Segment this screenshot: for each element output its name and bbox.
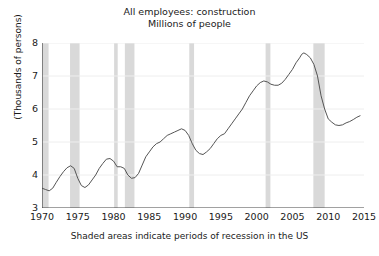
recession-band	[70, 43, 80, 208]
x-tick-label: 1985	[137, 211, 161, 222]
x-tick-label: 1975	[66, 211, 90, 222]
x-axis-ticks: 1970197519801985199019952000200520102015	[42, 211, 364, 225]
y-tick-label: 8	[24, 37, 38, 48]
plot-area	[42, 43, 364, 208]
x-tick-label: 1990	[173, 211, 197, 222]
recession-band	[42, 43, 49, 208]
x-tick-label: 1980	[101, 211, 125, 222]
x-tick-label: 2010	[316, 211, 340, 222]
chart-figure: All employees: construction Millions of …	[0, 0, 379, 256]
y-tick-label: 5	[24, 136, 38, 147]
chart-title-block: All employees: construction Millions of …	[0, 6, 379, 30]
y-tick-label: 4	[24, 169, 38, 180]
chart-svg	[42, 43, 364, 208]
recession-band	[114, 43, 118, 208]
recession-band	[125, 43, 135, 208]
chart-subtitle: Millions of people	[0, 18, 379, 30]
x-tick-label: 2005	[280, 211, 304, 222]
recession-band	[189, 43, 194, 208]
y-axis-ticks: 345678	[22, 43, 38, 208]
chart-title: All employees: construction	[0, 6, 379, 18]
x-tick-label: 1995	[209, 211, 233, 222]
x-tick-label: 2000	[245, 211, 269, 222]
data-line-series	[42, 53, 360, 191]
chart-caption: Shaded areas indicate periods of recessi…	[0, 231, 379, 241]
recession-band	[266, 43, 271, 208]
y-tick-label: 7	[24, 70, 38, 81]
x-tick-label: 1970	[30, 211, 54, 222]
y-tick-label: 6	[24, 103, 38, 114]
x-tick-label: 2015	[352, 211, 376, 222]
